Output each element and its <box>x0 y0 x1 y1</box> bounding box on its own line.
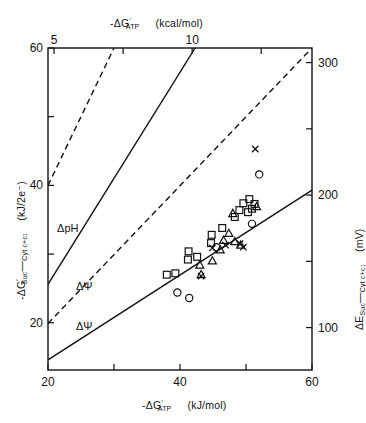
data-marker-square <box>219 225 226 232</box>
reference-line-solid-ΔΨ <box>48 190 312 360</box>
data-marker-triangle <box>253 202 261 209</box>
data-marker-square <box>163 271 170 278</box>
data-marker-square <box>194 253 201 260</box>
data-marker-circle <box>256 171 263 178</box>
line-label: ΔΨ <box>76 320 93 332</box>
data-marker-circle <box>174 289 181 296</box>
reference-line-solid-ΔpH <box>48 48 195 284</box>
y-tick-label: 40 <box>30 178 44 192</box>
x-tick-label: 40 <box>173 375 187 389</box>
top-tick-label: 5 <box>51 33 58 47</box>
line-label: ΔpH <box>57 222 78 234</box>
y-tick-label: 20 <box>30 316 44 330</box>
right-axis-title: ΔESuc—Cyt c+c1(mV) <box>354 228 365 330</box>
data-marker-triangle <box>208 257 216 264</box>
data-marker-square <box>208 231 215 238</box>
right-tick-label: 100 <box>318 321 338 335</box>
top-axis-title: -ΔG′ATP(kcal/mol) <box>110 18 203 29</box>
data-marker-circle <box>248 220 255 227</box>
right-tick-label: 200 <box>318 188 338 202</box>
line-label: ΔΨ <box>76 280 93 292</box>
right-tick-label: 300 <box>318 56 338 70</box>
y-tick-label: 60 <box>30 41 44 55</box>
data-marker-square <box>236 207 243 214</box>
data-marker-circle <box>186 294 193 301</box>
x-tick-label: 20 <box>41 375 55 389</box>
top-tick-label: 10 <box>185 33 199 47</box>
data-marker-square <box>185 256 192 263</box>
reference-line-dashed-ΔpH <box>48 48 114 185</box>
data-marker-square <box>185 248 192 255</box>
left-axis-title: -ΔG′Suc—Cyt c+c1(kJ/2e⁻) <box>16 181 27 300</box>
bottom-axis-title: -ΔG′ATP(kJ/mol) <box>142 400 226 411</box>
x-tick-label: 60 <box>305 375 319 389</box>
